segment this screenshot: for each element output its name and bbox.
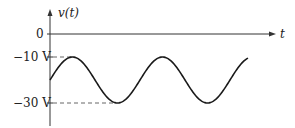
y-axis-arrowhead-icon — [48, 9, 53, 16]
minus30-label: −30 V — [13, 96, 51, 110]
t-axis-arrowhead-icon — [269, 32, 276, 37]
zero-label: 0 — [36, 27, 44, 41]
minus10-label: −10 V — [13, 50, 51, 64]
t-axis-label: t — [280, 27, 285, 41]
voltage-curve — [50, 57, 248, 103]
voltage-waveform-chart: v(t) t 0 −10 V −30 V — [0, 0, 295, 128]
y-axis-label: v(t) — [58, 6, 79, 20]
